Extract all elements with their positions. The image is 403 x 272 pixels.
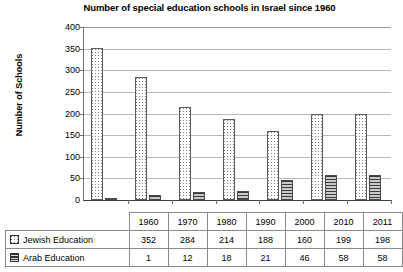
- y-axis-tick-label: 400: [65, 23, 80, 32]
- table-row-header: Arab Education: [6, 249, 130, 267]
- bar-jewish-1980: [179, 107, 191, 200]
- table-column-header: 1970: [168, 213, 207, 231]
- bar-arab-1960: [105, 198, 117, 200]
- y-axis-tick-label: 250: [65, 87, 80, 96]
- table-row-header: Jewish Education: [6, 231, 130, 249]
- bar-group: [84, 27, 128, 200]
- table-row: Arab Education1121821465858: [6, 249, 403, 267]
- y-axis-tick-label: 100: [65, 152, 80, 161]
- table-cell: 1: [129, 249, 168, 267]
- bar-group: [347, 27, 391, 200]
- y-axis-tick-label: 0: [75, 196, 80, 205]
- table-cell: 199: [324, 231, 363, 249]
- bar-group: [259, 27, 303, 200]
- bar-arab-1990: [237, 191, 249, 200]
- y-axis-tick-label: 50: [70, 174, 80, 183]
- chart-title: Number of special education schools in I…: [0, 2, 399, 13]
- table-row: Jewish Education352284214188160199198: [6, 231, 403, 249]
- table-cell: 352: [129, 231, 168, 249]
- plot-area: Number of Schools 4003503002502001501005…: [0, 16, 399, 212]
- y-axis-tick-label: 350: [65, 44, 80, 53]
- x-axis-tickmark: [303, 200, 304, 204]
- bar-group: [128, 27, 172, 200]
- plot-frame: [83, 27, 391, 201]
- horizontal-lines-square-icon: [10, 253, 19, 262]
- bar-arab-2011: [369, 175, 381, 200]
- table-cell: 58: [363, 249, 402, 267]
- bar-group: [216, 27, 260, 200]
- series-label: Jewish Education: [23, 235, 93, 245]
- x-axis-tickmark: [172, 200, 173, 204]
- bar-jewish-2010: [311, 114, 323, 200]
- table-cell: 188: [246, 231, 285, 249]
- table-column-header: 2010: [324, 213, 363, 231]
- table-column-header: 2011: [363, 213, 402, 231]
- table-cell: 198: [363, 231, 402, 249]
- data-table: 1960197019801990200020102011 Jewish Educ…: [5, 212, 403, 267]
- table-cell: 58: [324, 249, 363, 267]
- bar-jewish-2000: [267, 131, 279, 200]
- bar-jewish-2011: [355, 114, 367, 200]
- table-column-header: 1980: [207, 213, 246, 231]
- x-axis-tickmark: [347, 200, 348, 204]
- bar-group: [172, 27, 216, 200]
- table-cell: 12: [168, 249, 207, 267]
- bar-arab-2010: [325, 175, 337, 200]
- table-column-header: 1960: [129, 213, 168, 231]
- y-axis-tick-labels: 400350300250200150100500: [46, 16, 80, 200]
- table-column-header: 1990: [246, 213, 285, 231]
- table-header-row: 1960197019801990200020102011: [6, 213, 403, 231]
- bar-arab-2000: [281, 180, 293, 200]
- bar-jewish-1990: [223, 119, 235, 200]
- bar-jewish-1970: [135, 77, 147, 200]
- table-cell: 284: [168, 231, 207, 249]
- table-cell: 214: [207, 231, 246, 249]
- y-axis-tick-label: 150: [65, 131, 80, 140]
- x-axis-tickmark: [216, 200, 217, 204]
- x-axis-tickmark: [391, 200, 392, 204]
- table-cell: 160: [285, 231, 324, 249]
- bar-series-container: [84, 27, 391, 200]
- y-axis-title: Number of Schools: [14, 40, 24, 150]
- dotted-square-icon: [10, 235, 19, 244]
- table-column-header: 2000: [285, 213, 324, 231]
- table-cell: 21: [246, 249, 285, 267]
- bar-arab-1980: [193, 192, 205, 200]
- bar-jewish-1960: [91, 48, 103, 200]
- series-label: Arab Education: [23, 253, 85, 263]
- bar-group: [303, 27, 347, 200]
- table-body: Jewish Education352284214188160199198Ara…: [6, 231, 403, 267]
- bar-arab-1970: [149, 195, 161, 200]
- y-axis-tick-label: 300: [65, 66, 80, 75]
- y-axis-tick-label: 200: [65, 109, 80, 118]
- x-axis-tickmark: [259, 200, 260, 204]
- table-corner-cell: [6, 213, 130, 231]
- x-axis-tickmark: [128, 200, 129, 204]
- table-cell: 18: [207, 249, 246, 267]
- table-cell: 46: [285, 249, 324, 267]
